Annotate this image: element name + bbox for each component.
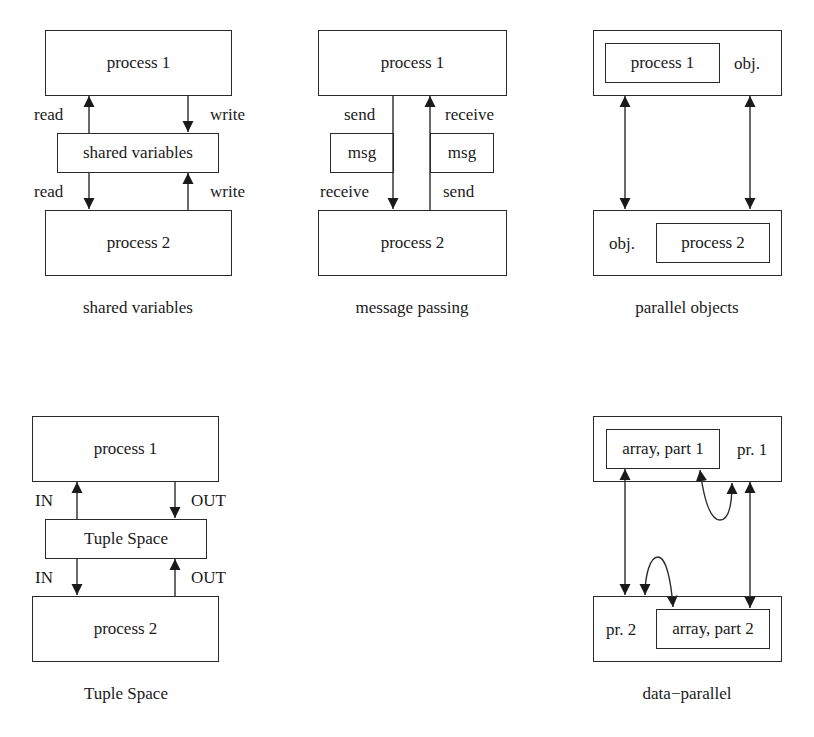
- write-label-bottom: write: [210, 183, 245, 200]
- write-label-top: write: [210, 106, 245, 123]
- process-2-box: process 2: [32, 596, 219, 662]
- process-2-inner-box: process 2: [656, 223, 770, 263]
- obj-label-bottom: obj.: [609, 235, 635, 252]
- in-label-top: IN: [35, 492, 53, 509]
- caption-message-passing: message passing: [356, 299, 469, 316]
- tuple-space-box: Tuple Space: [45, 519, 207, 559]
- out-label-top: OUT: [191, 492, 226, 509]
- caption-data-parallel: data−parallel: [643, 685, 732, 702]
- receive-label-top: receive: [445, 106, 494, 123]
- process-1-inner-box: process 1: [605, 43, 720, 83]
- msg-box-right: msg: [430, 133, 494, 173]
- out-label-bottom: OUT: [191, 569, 226, 586]
- send-label-bottom: send: [443, 183, 474, 200]
- process-2-box: process 2: [318, 210, 507, 276]
- process-1-box: process 1: [318, 30, 507, 96]
- process-1-box: process 1: [45, 30, 232, 96]
- caption-shared-variables: shared variables: [83, 299, 193, 316]
- caption-parallel-objects: parallel objects: [635, 299, 738, 316]
- array-part-1-box: array, part 1: [606, 429, 720, 469]
- pr-1-label: pr. 1: [737, 441, 767, 458]
- caption-tuple-space: Tuple Space: [84, 685, 168, 702]
- process-2-box: process 2: [45, 210, 232, 276]
- read-label-bottom: read: [34, 183, 63, 200]
- receive-label-bottom: receive: [320, 183, 369, 200]
- msg-box-left: msg: [330, 133, 394, 173]
- array-part-2-box: array, part 2: [656, 609, 770, 649]
- send-label-top: send: [344, 106, 375, 123]
- shared-variables-box: shared variables: [57, 133, 219, 173]
- read-label-top: read: [34, 106, 63, 123]
- pr-2-label: pr. 2: [606, 621, 636, 638]
- process-1-box: process 1: [32, 416, 219, 482]
- obj-label-top: obj.: [734, 55, 760, 72]
- in-label-bottom: IN: [35, 569, 53, 586]
